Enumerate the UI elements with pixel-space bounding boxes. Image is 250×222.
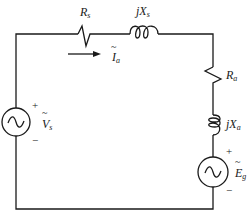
label-vs: Vs [42,117,52,132]
bottom-wire [16,136,213,209]
tilde-eg: ~ [235,156,241,167]
inductor-jxa [209,115,220,135]
minus-vs: − [32,134,38,146]
circuit-diagram: Rs jXs Ia ~ Ra jXa Vs ~ + − Eg ~ + − [0,0,250,222]
plus-eg: + [226,145,232,157]
label-ra: Ra [225,68,237,83]
minus-eg: − [226,184,232,196]
resistor-ra [205,67,221,115]
resistor-rs [78,26,95,46]
label-rs: Rs [79,5,90,20]
label-eg: Eg [234,166,246,181]
ac-wave-eg [205,167,221,177]
tilde-vs: ~ [42,107,48,118]
tilde-ia: ~ [111,41,117,52]
top-wire-left [16,34,78,108]
plus-vs: + [32,99,38,111]
arrowhead-icon [93,51,101,57]
top-wire-right [158,34,213,67]
label-ia: Ia [111,50,120,65]
inductor-jxs [130,26,158,38]
ac-wave-vs [8,117,24,127]
label-jxs: jXs [134,4,150,19]
label-jxa: jXa [224,117,241,132]
